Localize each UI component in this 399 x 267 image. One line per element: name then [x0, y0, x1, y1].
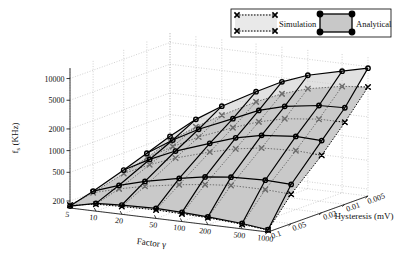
x-axis-tick-label: 100: [173, 223, 186, 233]
figure-3d-surface-plot: 2005001000200050001000051020501002005001…: [0, 0, 399, 267]
legend-swatch-simulation: [235, 14, 277, 32]
y-axis-tick-label: 10000: [45, 75, 65, 84]
x-axis-tick-label: 200: [199, 226, 212, 236]
x-axis-tick-label: 50: [149, 220, 158, 230]
y-axis-tick-label: 200: [53, 197, 65, 206]
legend-marker-circle: [317, 29, 323, 35]
y-axis-title-text: fs (KHz): [10, 123, 21, 154]
legend-marker-circle: [349, 11, 355, 17]
y-axis-title: fs (KHz): [10, 123, 21, 154]
y-axis-tick-label: 1000: [49, 147, 65, 156]
legend-swatch-analytical: [320, 14, 352, 32]
legend-label-analytical: Analytical: [356, 19, 392, 29]
y-axis-title-unit: (KHz): [10, 123, 20, 148]
y-axis-tick-label: 5000: [49, 96, 65, 105]
z-axis-title: Hysteresis (mV): [334, 211, 393, 221]
x-axis-tick-label: 10: [89, 213, 98, 223]
y-axis-tick-label: 2000: [49, 125, 65, 134]
y-axis-tick-label: 500: [53, 168, 65, 177]
x-axis-tick-label: 20: [115, 216, 124, 226]
legend[interactable]: SimulationAnalytical: [231, 9, 392, 37]
plot-canvas: 2005001000200050001000051020501002005001…: [0, 0, 399, 267]
x-axis-tick-label: 500: [233, 230, 246, 240]
legend-marker-circle: [349, 29, 355, 35]
legend-label-simulation: Simulation: [279, 19, 317, 29]
legend-marker-circle: [317, 11, 323, 17]
